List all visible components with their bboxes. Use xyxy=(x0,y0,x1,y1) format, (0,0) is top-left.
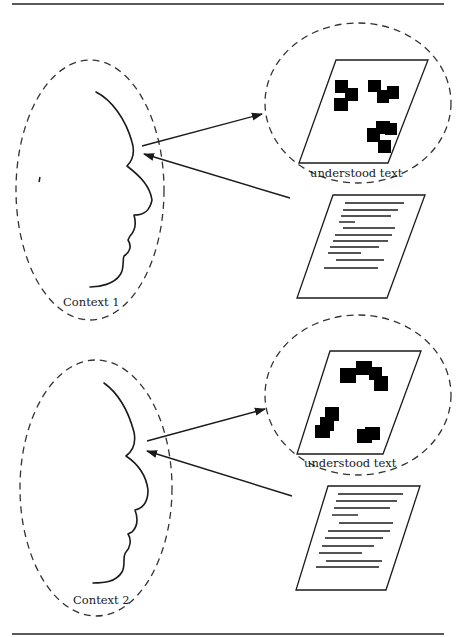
figure-canvas: understood text Context 1 xyxy=(0,0,458,637)
arrow-from-document xyxy=(144,154,290,198)
panel-context-2: understood text Context 2 xyxy=(20,315,451,616)
arrow-to-understood xyxy=(142,114,262,146)
context-label: Context 1 xyxy=(63,295,120,309)
context-ellipse xyxy=(16,60,164,320)
face-profile-icon xyxy=(90,92,152,287)
understood-text-label: understood text xyxy=(304,456,397,470)
eye-mark xyxy=(39,177,40,182)
understood-page xyxy=(299,60,428,163)
face-profile-icon xyxy=(93,383,148,583)
panel-context-1: understood text Context 1 xyxy=(16,23,451,320)
context-ellipse xyxy=(20,360,172,616)
arrow-to-understood xyxy=(147,409,265,441)
understood-text-label: understood text xyxy=(310,166,403,180)
context-label: Context 2 xyxy=(73,593,130,607)
arrow-from-document xyxy=(147,451,292,496)
